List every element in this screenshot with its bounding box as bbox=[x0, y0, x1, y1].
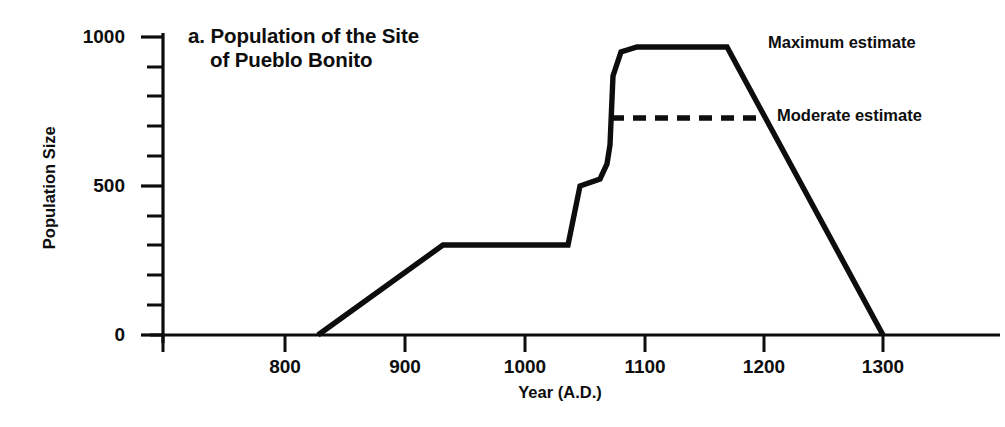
x-axis-ticks bbox=[163, 335, 883, 352]
x-tick-label-1300: 1300 bbox=[838, 356, 928, 378]
legend-label-moderate-estimate: Moderate estimate bbox=[777, 106, 922, 125]
x-axis-title: Year (A.D.) bbox=[460, 383, 660, 402]
page-title: a. Population of the Siteof Pueblo Bonit… bbox=[188, 24, 419, 72]
x-tick-label-1100: 1100 bbox=[600, 356, 690, 378]
y-tick-label-1000: 1000 bbox=[35, 26, 125, 48]
population-chart-figure: a. Population of the Siteof Pueblo Bonit… bbox=[0, 0, 1005, 427]
y-tick-label-500: 500 bbox=[35, 175, 125, 197]
chart-title-line-1: a. Population of the Site bbox=[188, 24, 419, 47]
y-axis-ticks bbox=[141, 37, 163, 335]
x-tick-label-1200: 1200 bbox=[719, 356, 809, 378]
y-tick-label-0: 0 bbox=[35, 324, 125, 346]
x-tick-label-800: 800 bbox=[240, 356, 330, 378]
x-tick-label-900: 900 bbox=[360, 356, 450, 378]
legend-label-maximum-estimate: Maximum estimate bbox=[768, 33, 916, 52]
chart-title-line-2: of Pueblo Bonito bbox=[188, 48, 419, 72]
x-tick-label-1000: 1000 bbox=[480, 356, 570, 378]
series-maximum-estimate bbox=[318, 47, 883, 335]
